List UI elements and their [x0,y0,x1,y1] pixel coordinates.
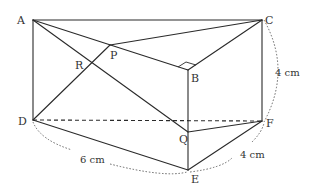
label-E: E [191,173,199,186]
label-A: A [16,14,26,27]
segment-PC [110,20,262,45]
segment-DP [33,45,110,120]
label-C: C [265,14,273,27]
label-F: F [266,117,274,130]
dimension-label-EF: 4 cm [240,149,265,160]
edge-DF-hidden [33,120,262,121]
edge-BC [188,20,262,70]
segment-QF [188,121,262,132]
label-B: B [191,72,199,85]
label-P: P [110,49,118,62]
label-R: R [75,59,84,72]
dimension-label-DE: 6 cm [80,154,105,165]
segment-AQ [33,20,188,132]
dimension-label-CF: 4 cm [275,67,300,78]
prism-diagram: A C P R B D F Q E 4 cm 6 cm 4 cm [0,0,310,190]
label-Q: Q [179,133,188,146]
label-D: D [18,115,27,128]
edge-DE [33,120,188,170]
